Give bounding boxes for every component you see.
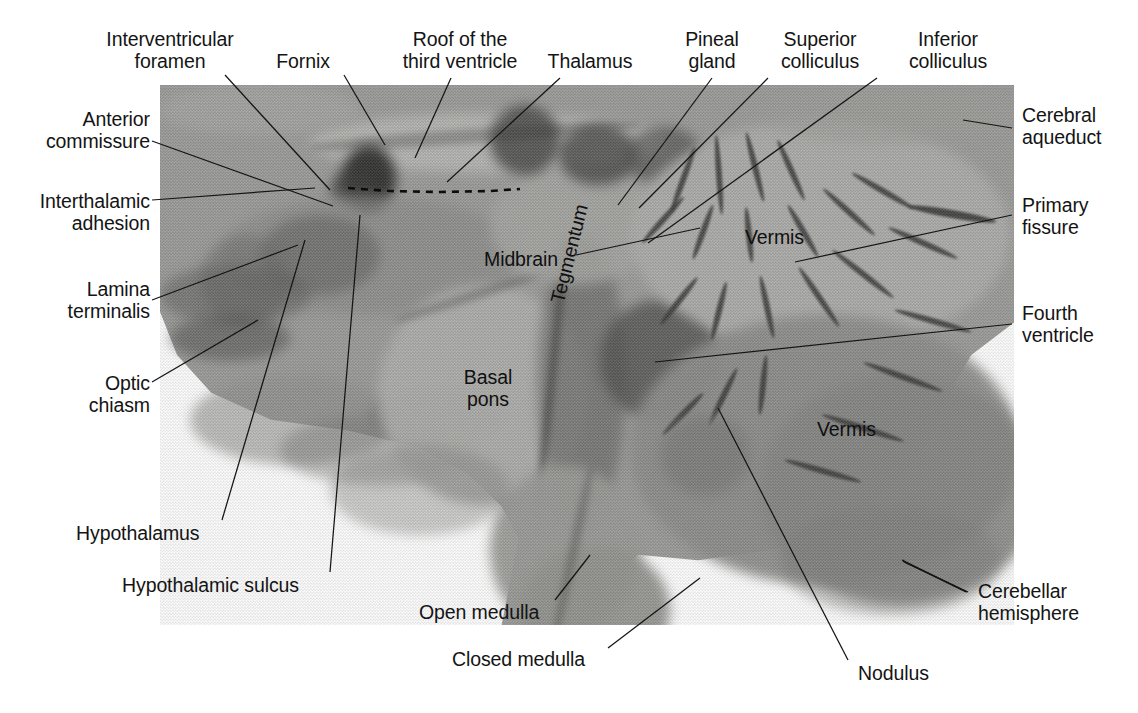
label-vermis-upper: Vermis (745, 226, 804, 248)
label-superior-colliculus: Superior colliculus (760, 28, 880, 72)
label-hypothalamus: Hypothalamus (76, 522, 199, 544)
photo-grain-overlay (160, 85, 1014, 625)
label-optic-chiasm: Optic chiasm (0, 372, 150, 416)
label-basal-pons: Basal pons (440, 366, 536, 410)
label-cerebellar-hemisphere: Cerebellar hemisphere (978, 580, 1079, 624)
label-interventricular-foramen: Interventricular foramen (90, 28, 250, 72)
label-cerebral-aqueduct: Cerebral aqueduct (1022, 104, 1101, 148)
label-nodulus: Nodulus (858, 662, 929, 684)
label-primary-fissure: Primary fissure (1022, 194, 1088, 238)
label-open-medulla: Open medulla (419, 601, 539, 623)
label-anterior-commissure: Anterior commissure (0, 108, 150, 152)
label-closed-medulla: Closed medulla (452, 648, 585, 670)
label-vermis-lower: Vermis (817, 418, 876, 440)
label-midbrain: Midbrain (484, 248, 558, 270)
label-roof-third-ventricle: Roof of the third ventricle (385, 28, 535, 72)
label-thalamus: Thalamus (535, 50, 645, 72)
label-pineal-gland: Pineal gland (660, 28, 764, 72)
anatomical-figure: Interventricular foramen Fornix Roof of … (0, 0, 1138, 713)
specimen-photograph (160, 85, 1014, 625)
label-fornix: Fornix (256, 50, 350, 72)
label-inferior-colliculus: Inferior colliculus (888, 28, 1008, 72)
label-interthalamic-adhesion: Interthalamic adhesion (0, 190, 150, 234)
label-lamina-terminalis: Lamina terminalis (0, 278, 150, 322)
label-fourth-ventricle: Fourth ventricle (1022, 302, 1094, 346)
label-hypothalamic-sulcus: Hypothalamic sulcus (122, 574, 299, 596)
